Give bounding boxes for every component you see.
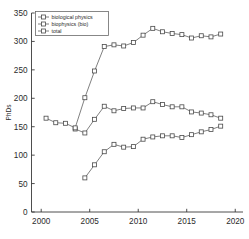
data-point-marker xyxy=(63,121,67,125)
data-point-marker xyxy=(219,116,223,120)
data-point-marker xyxy=(112,142,116,146)
chart-series xyxy=(44,26,223,180)
legend-label: biological physics xyxy=(52,14,94,20)
y-tick-label: 100 xyxy=(14,151,28,160)
data-point-marker xyxy=(44,116,48,120)
data-point-marker xyxy=(102,104,106,108)
data-point-marker xyxy=(160,103,164,107)
data-point-marker xyxy=(199,34,203,38)
data-point-marker xyxy=(180,136,184,140)
data-point-marker xyxy=(209,35,213,39)
data-point-marker xyxy=(112,43,116,47)
x-tick-label: 2010 xyxy=(129,217,148,226)
data-point-marker xyxy=(170,31,174,35)
data-point-marker xyxy=(151,26,155,30)
x-tick-label: 2000 xyxy=(32,217,51,226)
data-point-marker xyxy=(102,45,106,49)
data-point-marker xyxy=(93,117,97,121)
y-tick-label: 0 xyxy=(23,208,28,217)
data-point-marker xyxy=(180,33,184,37)
data-point-marker xyxy=(93,69,97,73)
legend-item-biophysics-bio-: biophysics (bio) xyxy=(38,21,89,27)
data-point-marker xyxy=(83,96,87,100)
data-point-marker xyxy=(190,36,194,40)
legend-sample-marker xyxy=(42,22,46,26)
data-point-marker xyxy=(131,41,135,45)
y-tick-label: 350 xyxy=(14,9,28,18)
data-point-marker xyxy=(141,106,145,110)
data-point-marker xyxy=(93,163,97,167)
y-tick-label: 200 xyxy=(14,94,28,103)
data-point-marker xyxy=(141,33,145,37)
data-point-marker xyxy=(190,133,194,137)
data-point-marker xyxy=(122,107,126,111)
data-point-marker xyxy=(141,137,145,141)
data-point-marker xyxy=(219,124,223,128)
data-point-marker xyxy=(219,32,223,36)
chart-legend: biological physicsbiophysics (bio)total xyxy=(36,12,109,36)
data-point-marker xyxy=(83,131,87,135)
data-point-marker xyxy=(209,128,213,132)
series-biological-physics xyxy=(83,124,223,180)
data-point-marker xyxy=(112,109,116,113)
chart-figure: 2000200520102015202005010015020025030035… xyxy=(0,0,249,239)
series-line xyxy=(75,102,221,133)
line-chart: 2000200520102015202005010015020025030035… xyxy=(0,0,249,239)
data-point-marker xyxy=(190,110,194,114)
data-point-marker xyxy=(209,113,213,117)
data-point-marker xyxy=(54,121,58,125)
legend-sample-marker xyxy=(42,29,46,33)
data-point-marker xyxy=(199,111,203,115)
data-point-marker xyxy=(160,134,164,138)
legend-sample-marker xyxy=(42,15,46,19)
data-point-marker xyxy=(180,105,184,109)
series-total xyxy=(44,26,223,130)
data-point-marker xyxy=(73,126,77,130)
data-point-marker xyxy=(151,135,155,139)
y-tick-label: 300 xyxy=(14,37,28,46)
chart-axes: 2000200520102015202005010015020025030035… xyxy=(5,9,245,226)
x-tick-label: 2020 xyxy=(226,217,245,226)
y-tick-label: 50 xyxy=(18,180,28,189)
data-point-marker xyxy=(199,130,203,134)
data-point-marker xyxy=(151,100,155,104)
legend-label: biophysics (bio) xyxy=(52,21,89,27)
data-point-marker xyxy=(170,134,174,138)
legend-label: total xyxy=(52,28,62,34)
data-point-marker xyxy=(160,30,164,34)
y-tick-label: 150 xyxy=(14,123,28,132)
data-point-marker xyxy=(170,105,174,109)
x-tick-label: 2015 xyxy=(178,217,197,226)
data-point-marker xyxy=(131,145,135,149)
y-tick-label: 250 xyxy=(14,66,28,75)
data-point-marker xyxy=(122,145,126,149)
data-point-marker xyxy=(122,44,126,48)
data-point-marker xyxy=(131,106,135,110)
y-axis-label: PhDs xyxy=(5,104,12,121)
data-point-marker xyxy=(83,176,87,180)
x-tick-label: 2005 xyxy=(81,217,100,226)
data-point-marker xyxy=(102,150,106,154)
